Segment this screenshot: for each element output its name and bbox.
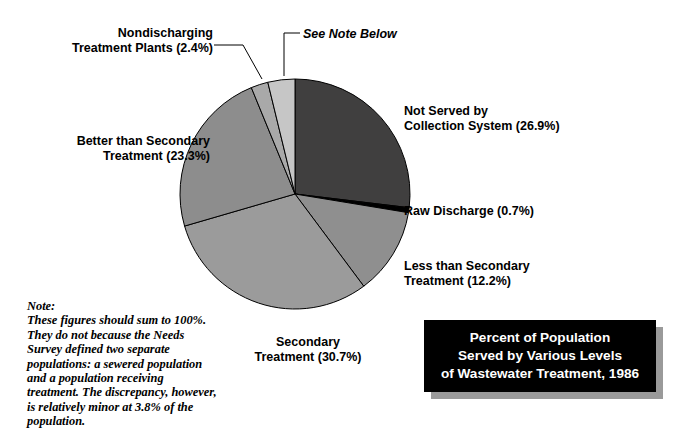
figure-note-heading: Note: [27, 299, 217, 313]
figure-note-body: These figures should sum to 100%. They d… [27, 313, 217, 428]
see-note-leader [284, 33, 300, 76]
nondischarging-leader [214, 45, 262, 79]
slice-label-better-than-secondary: Better than Secondary Treatment (23.3%) [10, 134, 210, 164]
title-box: Percent of Population Served by Various … [424, 320, 656, 392]
slice-label-see-note-below: See Note Below [303, 27, 397, 42]
slice-label-not-served: Not Served by Collection System (26.9%) [404, 104, 584, 134]
figure-note: Note: These figures should sum to 100%. … [27, 299, 217, 429]
pie-slices-group [180, 79, 410, 309]
slice-label-less-than-secondary: Less than Secondary Treatment (12.2%) [404, 259, 594, 289]
slice-label-nondischarging: Nondischarging Treatment Plants (2.4%) [28, 26, 213, 56]
slice-label-raw-discharge: Raw Discharge (0.7%) [404, 204, 604, 219]
leader-lines-group [214, 33, 300, 79]
figure-title: Percent of Population Served by Various … [441, 329, 639, 383]
pie-chart-figure: Better than Secondary Treatment (23.3%) … [0, 0, 696, 441]
slice-label-secondary: Secondary Treatment (30.7%) [228, 335, 388, 365]
pie-slice-not-served-by-collection-system [295, 79, 410, 208]
